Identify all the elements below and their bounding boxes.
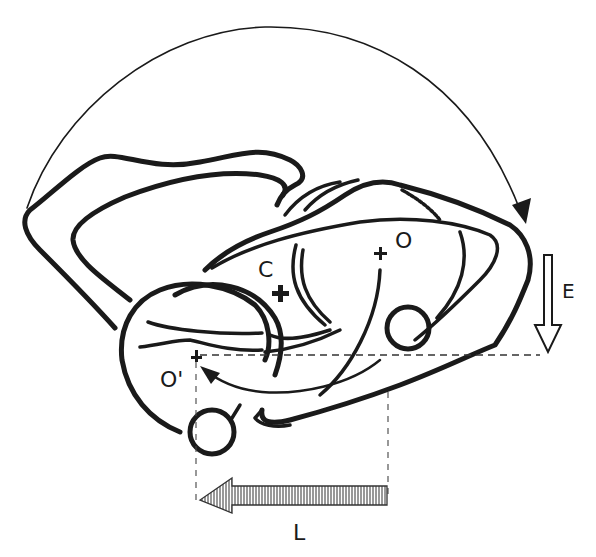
label-E: E	[562, 279, 575, 303]
E-down-arrow-icon	[535, 255, 561, 352]
marker-O	[374, 247, 387, 260]
marker-O-prime	[191, 350, 202, 362]
rotation-arc-arrow	[27, 27, 531, 224]
pivot-arrowhead-icon	[200, 366, 220, 384]
label-C: C	[258, 257, 273, 282]
L-left-arrow-icon	[200, 478, 387, 513]
diagram-canvas: C O O' E L	[0, 0, 596, 557]
pivot-path-arrow	[200, 360, 380, 393]
label-O-prime: O'	[160, 367, 183, 392]
marker-C	[272, 285, 289, 302]
label-L: L	[293, 520, 306, 545]
reference-lines	[196, 355, 540, 500]
arc-arrowhead-icon	[512, 198, 531, 224]
rotated-ball	[190, 410, 234, 454]
label-O: O	[395, 228, 412, 253]
original-ball	[387, 307, 429, 349]
